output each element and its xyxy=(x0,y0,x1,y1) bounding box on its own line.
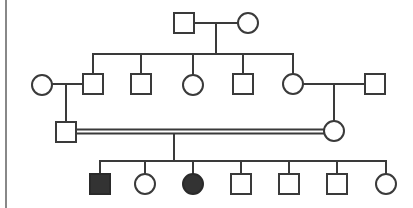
individual-IV-6-male xyxy=(327,174,347,194)
individual-IV-2-female xyxy=(135,174,155,194)
individual-I-1-male xyxy=(174,13,194,33)
generation-4 xyxy=(90,161,396,194)
individual-II-6-female xyxy=(283,74,303,94)
generation-1 xyxy=(92,13,294,54)
individual-IV-4-male xyxy=(231,174,251,194)
individual-I-2-female xyxy=(238,13,258,33)
individual-IV-7-female xyxy=(376,174,396,194)
individual-II-4-female xyxy=(183,75,203,95)
individual-IV-3-affected-female xyxy=(183,174,203,194)
individual-II-2-male xyxy=(83,74,103,94)
individual-IV-5-male xyxy=(279,174,299,194)
individual-II-1-female xyxy=(32,75,52,95)
individual-III-1-male xyxy=(56,122,76,142)
individual-III-2-female xyxy=(324,121,344,141)
individual-II-7-male xyxy=(365,74,385,94)
generation-3 xyxy=(56,121,387,161)
individual-IV-1-affected-male xyxy=(90,174,110,194)
generation-2 xyxy=(32,54,385,122)
individual-II-5-male xyxy=(233,74,253,94)
pedigree-canvas xyxy=(0,0,413,208)
individual-II-3-male xyxy=(131,74,151,94)
pedigree-diagram xyxy=(0,0,413,208)
